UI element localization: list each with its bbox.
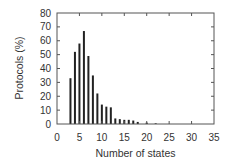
y-tick-label: 10	[40, 105, 52, 116]
bar	[83, 31, 85, 124]
y-tick-label: 80	[40, 8, 52, 19]
y-axis-tick-labels: 01020304050607080	[40, 8, 52, 130]
x-tick-label: 20	[141, 132, 153, 143]
y-tick-label: 50	[40, 49, 52, 60]
bar	[110, 107, 112, 124]
bar	[132, 121, 134, 124]
x-tick-label: 15	[119, 132, 131, 143]
bar	[105, 107, 107, 124]
y-axis-title: Protocols (%)	[13, 36, 25, 99]
bar	[87, 56, 89, 124]
y-tick-label: 20	[40, 91, 52, 102]
y-tick-label: 60	[40, 35, 52, 46]
bar	[92, 75, 94, 124]
bar-series	[69, 31, 156, 124]
chart-svg: 01020304050607080 05101520253035 Number …	[0, 0, 232, 167]
x-tick-label: 0	[54, 132, 60, 143]
bar	[74, 52, 76, 124]
y-tick-label: 40	[40, 63, 52, 74]
x-tick-label: 35	[208, 132, 220, 143]
bar	[114, 118, 116, 124]
x-axis-title: Number of states	[96, 147, 176, 159]
x-tick-label: 5	[77, 132, 83, 143]
y-tick-label: 30	[40, 77, 52, 88]
bar	[78, 44, 80, 124]
x-tick-label: 25	[164, 132, 176, 143]
bar	[69, 78, 71, 124]
y-tick-label: 70	[40, 21, 52, 32]
x-tick-label: 30	[186, 132, 198, 143]
x-axis-tick-labels: 05101520253035	[54, 132, 220, 143]
protocols-histogram-chart: 01020304050607080 05101520253035 Number …	[0, 0, 232, 167]
bar	[96, 93, 98, 124]
y-tick-label: 0	[45, 119, 51, 130]
axis-ticks	[57, 13, 214, 124]
plot-frame	[57, 13, 214, 124]
bar	[119, 119, 121, 124]
bar	[128, 120, 130, 124]
x-tick-label: 10	[96, 132, 108, 143]
